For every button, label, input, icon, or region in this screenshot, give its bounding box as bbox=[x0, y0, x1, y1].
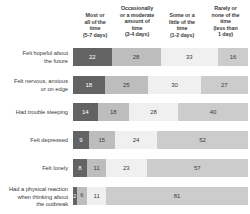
bar-track: 8 11 23 57 bbox=[73, 159, 248, 177]
row-label-line: Felt lonely bbox=[0, 165, 68, 173]
bar-segment-rarely[interactable]: 40 bbox=[178, 103, 248, 121]
bar-segment-some[interactable]: 30 bbox=[148, 76, 201, 94]
bar-segment-occasionally[interactable]: 25 bbox=[105, 76, 149, 94]
bar-segment-occasionally[interactable]: 15 bbox=[89, 131, 115, 149]
bar-segment-value: 11 bbox=[94, 193, 100, 199]
row-label-line: Felt nervous, anxious bbox=[0, 78, 68, 86]
bar-segment-value: 81 bbox=[174, 193, 181, 199]
bar-segment-rarely[interactable]: 57 bbox=[147, 159, 249, 177]
bar-segment-value: 8 bbox=[78, 165, 81, 171]
row-label: Felt hopeful about the future bbox=[0, 50, 68, 65]
bar-segment-value: 16 bbox=[230, 54, 237, 60]
bar-segment-most[interactable]: 14 bbox=[73, 103, 98, 121]
bar-segment-rarely[interactable]: 52 bbox=[157, 131, 248, 149]
row-label: Had trouble sleeping bbox=[0, 109, 68, 117]
row-label-line: or on edge bbox=[0, 86, 68, 94]
bar-segment-value: 25 bbox=[123, 82, 130, 88]
bar-segment-occasionally[interactable]: 18 bbox=[98, 103, 130, 121]
column-header-rarely-or-none-line3: time bbox=[203, 18, 248, 25]
bar-segment-value: 52 bbox=[199, 137, 206, 143]
column-header-occasionally-line4: time bbox=[111, 25, 163, 32]
bar-segment-value: 6 bbox=[80, 193, 83, 199]
bar-segment-value: 23 bbox=[123, 165, 130, 171]
column-header-row: Most or all of the time (5-7 days) Occas… bbox=[0, 0, 250, 45]
column-header-rarely-or-none-line1: Rarely or bbox=[203, 5, 248, 12]
bar-segment-rarely[interactable]: 27 bbox=[201, 76, 248, 94]
bar-segment-value: 9 bbox=[79, 137, 82, 143]
column-header-occasionally-line2: or a moderate bbox=[111, 12, 163, 19]
column-header-occasionally-line5: (3-4 days) bbox=[111, 31, 163, 38]
table-row: Felt nervous, anxious or on edge 18 25 3… bbox=[0, 76, 250, 96]
column-header-some-or-little-line2: little of the bbox=[158, 19, 206, 26]
table-row: Felt depressed 9 15 24 52 bbox=[0, 131, 250, 151]
bar-segment-occasionally[interactable]: 11 bbox=[87, 159, 106, 177]
column-header-rarely-or-none-line4: (less than bbox=[203, 25, 248, 32]
bar-segment-value: 22 bbox=[89, 54, 96, 60]
bar-segment-some[interactable]: 33 bbox=[161, 48, 219, 66]
column-header-rarely-or-none: Rarely or none of the time (less than 1 … bbox=[203, 5, 248, 38]
bar-segment-most[interactable]: 9 bbox=[73, 131, 89, 149]
bar-segment-value: 28 bbox=[133, 54, 140, 60]
bar-segment-rarely[interactable]: 16 bbox=[218, 48, 248, 66]
row-label: Had a physical reaction when thinking ab… bbox=[0, 186, 68, 209]
bar-segment-some[interactable]: 24 bbox=[115, 131, 157, 149]
bar-segment-most[interactable]: 22 bbox=[73, 48, 112, 66]
bar-segment-occasionally[interactable]: 6 bbox=[77, 187, 88, 205]
bar-segment-most[interactable]: 8 bbox=[73, 159, 87, 177]
stacked-bar-chart: Most or all of the time (5-7 days) Occas… bbox=[0, 0, 250, 214]
bar-segment-occasionally[interactable]: 28 bbox=[112, 48, 161, 66]
row-label-line: the outbreak bbox=[0, 201, 68, 209]
bar-segment-value: 24 bbox=[133, 137, 140, 143]
column-header-occasionally: Occasionally or a moderate amount of tim… bbox=[111, 5, 163, 38]
row-label-line: Felt depressed bbox=[0, 137, 68, 145]
row-label-line: Had trouble sleeping bbox=[0, 109, 68, 117]
bar-track: 2 6 11 81 bbox=[73, 187, 248, 205]
bar-segment-value: 11 bbox=[94, 165, 100, 171]
row-label: Felt depressed bbox=[0, 137, 68, 145]
bar-track: 18 25 30 27 bbox=[73, 76, 248, 94]
row-label-line: the future bbox=[0, 58, 68, 66]
bar-segment-value: 15 bbox=[99, 137, 106, 143]
row-label-line: when thinking about bbox=[0, 194, 68, 202]
bar-segment-some[interactable]: 23 bbox=[106, 159, 146, 177]
table-row: Had trouble sleeping 14 18 28 40 bbox=[0, 103, 250, 123]
bar-segment-value: 28 bbox=[150, 109, 157, 115]
bar-segment-value: 18 bbox=[110, 109, 117, 115]
column-header-rarely-or-none-line5: 1 day) bbox=[203, 31, 248, 38]
table-row: Felt lonely 8 11 23 57 bbox=[0, 159, 250, 179]
bar-segment-some[interactable]: 11 bbox=[87, 187, 106, 205]
row-label-line: Felt hopeful about bbox=[0, 50, 68, 58]
bar-segment-value: 33 bbox=[186, 54, 193, 60]
column-header-some-or-little-line4: (1-2 days) bbox=[158, 32, 206, 39]
column-header-some-or-little-line3: time bbox=[158, 25, 206, 32]
bar-track: 22 28 33 16 bbox=[73, 48, 248, 66]
table-row: Had a physical reaction when thinking ab… bbox=[0, 186, 250, 210]
bar-track: 9 15 24 52 bbox=[73, 131, 248, 149]
bar-segment-value: 30 bbox=[171, 82, 178, 88]
bar-segment-rarely[interactable]: 81 bbox=[106, 187, 248, 205]
bar-segment-most[interactable]: 18 bbox=[73, 76, 105, 94]
bar-segment-some[interactable]: 28 bbox=[129, 103, 178, 121]
column-header-occasionally-line1: Occasionally bbox=[111, 5, 163, 12]
bar-track: 14 18 28 40 bbox=[73, 103, 248, 121]
bar-segment-value: 57 bbox=[194, 165, 201, 171]
column-header-some-or-little: Some or a little of the time (1-2 days) bbox=[158, 12, 206, 38]
column-header-rarely-or-none-line2: none of the bbox=[203, 12, 248, 19]
row-label: Felt lonely bbox=[0, 165, 68, 173]
bar-segment-value: 14 bbox=[82, 109, 89, 115]
row-label: Felt nervous, anxious or on edge bbox=[0, 78, 68, 93]
column-header-occasionally-line3: amount of bbox=[111, 18, 163, 25]
bar-segment-value: 27 bbox=[221, 82, 228, 88]
column-header-some-or-little-line1: Some or a bbox=[158, 12, 206, 19]
bar-segment-value: 40 bbox=[210, 109, 217, 115]
table-row: Felt hopeful about the future 22 28 33 1… bbox=[0, 48, 250, 68]
row-label-line: Had a physical reaction bbox=[0, 186, 68, 194]
bar-segment-value: 18 bbox=[85, 82, 92, 88]
